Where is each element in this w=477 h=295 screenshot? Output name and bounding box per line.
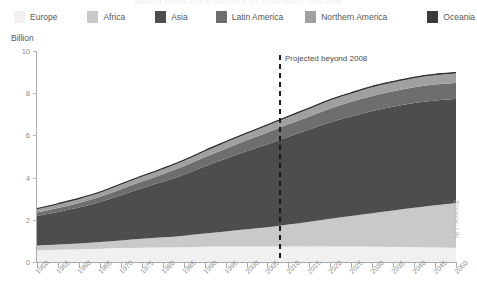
y-axis-tick-mark [33, 51, 37, 52]
y-axis-tick-mark [33, 135, 37, 136]
y-axis-tick-label: 0 [8, 258, 30, 267]
y-axis-tick-label: 8 [8, 89, 30, 98]
y-axis-tick-label: 10 [8, 47, 30, 56]
source-note: Source: UN [452, 200, 461, 239]
stacked-area-plot [0, 0, 477, 295]
y-axis-tick-mark [33, 93, 37, 94]
y-axis-line [36, 51, 37, 263]
projection-annotation-label: Projected beyond 2008 [285, 54, 367, 63]
y-axis-tick-mark [33, 178, 37, 179]
y-axis-tick-label: 2 [8, 216, 30, 225]
y-axis-tick-label: 4 [8, 174, 30, 183]
y-axis-tick-label: 6 [8, 131, 30, 140]
area-series-europe [37, 246, 456, 262]
y-axis-tick-mark [33, 220, 37, 221]
